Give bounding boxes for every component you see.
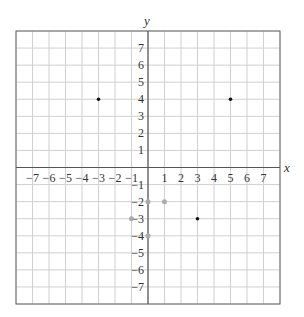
x-tick-label: 1 [162, 171, 168, 185]
y-tick-label: −5 [131, 246, 144, 260]
x-tick-label: 6 [244, 171, 250, 185]
y-tick-label: −4 [131, 229, 144, 243]
x-tick-label: −4 [76, 171, 89, 185]
x-tick-label: 4 [211, 171, 217, 185]
x-tick-label: 2 [178, 171, 184, 185]
y-tick-label: 3 [138, 109, 144, 123]
y-tick-label: −6 [131, 263, 144, 277]
coordinate-plane: xy−7−6−5−4−3−2−112345677654321−1−2−3−4−5… [0, 0, 304, 317]
x-tick-label: −2 [109, 171, 122, 185]
data-point [146, 233, 151, 238]
x-tick-label: −7 [26, 171, 39, 185]
x-tick-label: −3 [92, 171, 105, 185]
data-point [97, 97, 101, 101]
y-tick-label: 6 [138, 58, 144, 72]
y-tick-label: 4 [138, 92, 144, 106]
data-point [146, 199, 151, 204]
y-tick-label: 2 [138, 126, 144, 140]
y-tick-label: 1 [138, 143, 144, 157]
data-point [129, 216, 134, 221]
x-tick-label: 5 [228, 171, 234, 185]
y-axis-label: y [142, 13, 150, 28]
y-tick-label: −7 [131, 280, 144, 294]
y-tick-label: 5 [138, 75, 144, 89]
x-axis-label: x [283, 160, 290, 175]
data-point [162, 199, 167, 204]
x-tick-label: −6 [43, 171, 56, 185]
x-tick-label: 3 [195, 171, 201, 185]
data-point [196, 217, 200, 221]
y-tick-label: −1 [131, 178, 144, 192]
data-point [229, 97, 233, 101]
y-tick-label: −2 [131, 195, 144, 209]
y-tick-label: 7 [138, 41, 144, 55]
x-tick-label: −5 [59, 171, 72, 185]
x-tick-label: 7 [261, 171, 267, 185]
